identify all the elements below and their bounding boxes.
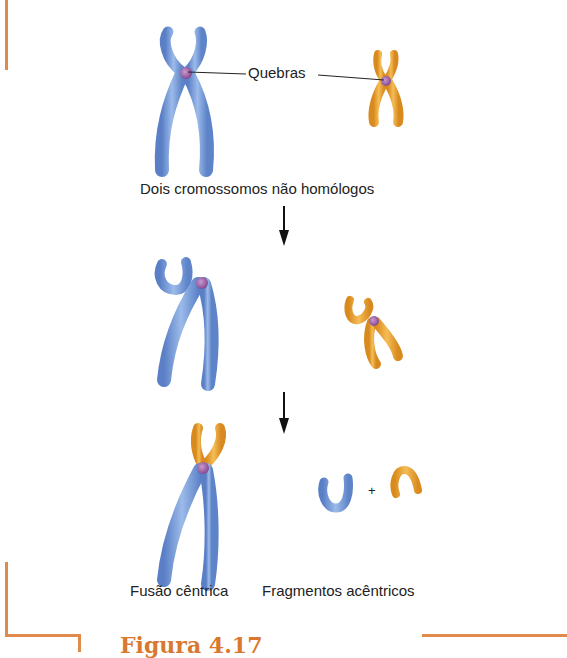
break-pointer-left <box>188 72 246 74</box>
centromere <box>197 462 209 474</box>
blue-arm-lower-left <box>162 74 182 170</box>
centromere <box>180 67 192 79</box>
breaks-label: Quebras <box>248 64 306 81</box>
blue-acentric-fragment <box>323 478 349 508</box>
orange-acentric-fragment <box>348 300 369 320</box>
large-chromosome-intact <box>162 32 207 170</box>
break-pointer-right <box>318 75 384 80</box>
orange-arm-lower-right <box>388 82 399 122</box>
fragments-caption: Fragmentos acêntricos <box>262 582 415 599</box>
centromere <box>369 316 379 326</box>
small-chromosome-intact <box>373 54 398 122</box>
arrow-down-icon <box>279 392 289 434</box>
centric-fusion-chromosome <box>164 428 221 584</box>
centromere <box>196 277 208 289</box>
fusion-caption: Fusão cêntrica <box>130 582 228 599</box>
blue-arm-lower-right <box>204 284 211 384</box>
orange-arm-lower-left <box>373 82 384 122</box>
blue-arm-lower-right <box>206 470 212 584</box>
orange-arm-right <box>206 428 221 464</box>
blue-arm-upper-right <box>188 32 202 72</box>
blue-arm-lower-left <box>164 470 200 580</box>
blue-arm-upper-left <box>165 32 182 72</box>
orange-acentric-fragment <box>394 470 418 494</box>
blue-arm-lower-right <box>188 74 207 170</box>
orange-arm-upper-left <box>377 54 384 80</box>
blue-arm-lower-left <box>164 284 198 380</box>
orange-arm-left <box>196 428 202 464</box>
figure-title: Figura 4.17 <box>120 632 262 658</box>
small-chromosome-broken <box>348 300 398 364</box>
orange-arm-upper-right <box>387 54 395 80</box>
arrow-down-icon <box>279 206 289 246</box>
plus-sign: + <box>368 483 376 498</box>
large-chromosome-broken <box>160 262 212 384</box>
step1-caption: Dois cromossomos não homólogos <box>140 180 374 197</box>
centromere <box>381 76 391 86</box>
blue-acentric-fragment <box>160 262 188 290</box>
orange-arm-lower-right <box>376 322 398 356</box>
